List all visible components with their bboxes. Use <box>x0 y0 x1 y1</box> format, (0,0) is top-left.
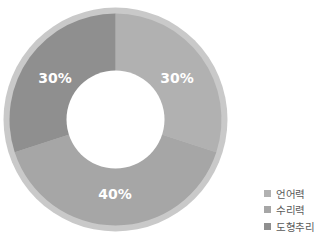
legend-swatch-language-icon <box>264 190 271 197</box>
legend-swatch-math-icon <box>264 206 271 213</box>
chart-legend: 언어력 수리력 도형추리 <box>264 185 317 235</box>
legend-item-math: 수리력 <box>264 202 317 219</box>
legend-swatch-shape-icon <box>264 223 271 230</box>
slice-label-shape: 30% <box>38 70 72 86</box>
legend-item-shape: 도형추리 <box>264 218 317 235</box>
legend-label-shape: 도형추리 <box>276 219 315 234</box>
legend-label-language: 언어력 <box>276 186 305 201</box>
slice-label-language: 30% <box>160 70 194 86</box>
donut-chart: 30% 40% 30% 언어력 수리력 도형추리 <box>0 0 317 236</box>
donut-hole <box>67 71 165 169</box>
legend-label-math: 수리력 <box>276 202 305 217</box>
slice-label-math: 40% <box>98 186 132 202</box>
legend-item-language: 언어력 <box>264 185 317 202</box>
